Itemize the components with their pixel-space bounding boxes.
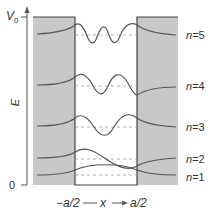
- x-arrow-icon: [122, 201, 128, 206]
- level-label-n1: n=1: [186, 172, 205, 183]
- level-label-n4: n=4: [186, 81, 205, 92]
- v0-label: V0: [6, 10, 18, 25]
- energy-levels: [75, 35, 137, 175]
- left-barrier: [33, 17, 75, 185]
- zero-label: 0: [9, 180, 15, 191]
- level-label-n2: n=2: [186, 154, 205, 165]
- well-diagram: [0, 0, 215, 217]
- axis-arrow-icon: [25, 6, 30, 13]
- energy-label: E: [10, 99, 21, 106]
- level-label-n5: n=5: [186, 30, 205, 41]
- x-var-label: x: [100, 197, 106, 209]
- x-left-label: −a/2: [56, 197, 80, 209]
- x-right-label: a/2: [130, 197, 147, 209]
- level-label-n3: n=3: [186, 122, 205, 133]
